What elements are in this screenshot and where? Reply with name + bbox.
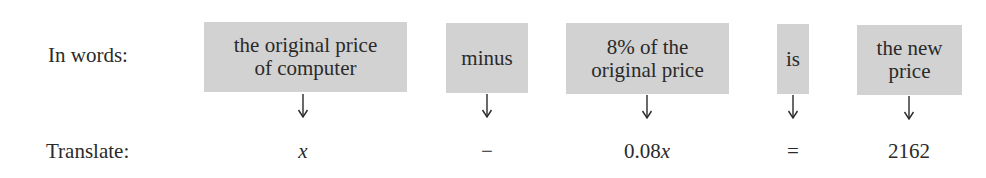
phrase-line: minus xyxy=(461,47,512,70)
phrase-line: the original price xyxy=(234,34,377,57)
variable-x: x xyxy=(298,139,307,163)
translate-label: Translate: xyxy=(46,139,129,164)
translation-x: x xyxy=(298,139,307,164)
down-arrow-icon xyxy=(641,95,653,119)
in-words-label: In words: xyxy=(48,43,128,68)
down-arrow-icon xyxy=(903,96,915,120)
translation-prefix: 0.08 xyxy=(624,139,661,163)
variable-x: x xyxy=(661,139,670,163)
phrase-line: of computer xyxy=(234,57,377,80)
down-arrow-icon xyxy=(297,94,309,118)
down-arrow-icon xyxy=(481,94,493,118)
phrase-box-new-price: the newprice xyxy=(857,25,962,95)
phrase-box-minus: minus xyxy=(446,23,528,93)
phrase-line: original price xyxy=(591,59,704,82)
phrase-line: 8% of the xyxy=(591,36,704,59)
translation-prefix: − xyxy=(481,139,493,163)
down-arrow-icon xyxy=(787,95,799,119)
translation-new-price: 2162 xyxy=(888,139,930,164)
phrase-line: is xyxy=(786,48,800,71)
phrase-box-eight-percent: 8% of theoriginal price xyxy=(566,23,729,94)
phrase-line: price xyxy=(877,60,943,83)
phrase-box-is: is xyxy=(777,24,809,94)
phrase-box-original-price: the original priceof computer xyxy=(204,22,407,92)
translation-minus: − xyxy=(481,139,493,164)
translation-percent: 0.08x xyxy=(624,139,670,164)
translation-equals: = xyxy=(787,139,799,164)
translation-prefix: = xyxy=(787,139,799,163)
translation-prefix: 2162 xyxy=(888,139,930,163)
phrase-line: the new xyxy=(877,37,943,60)
